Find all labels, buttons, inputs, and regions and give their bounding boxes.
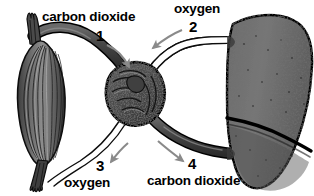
label-number-4: 4 [188,156,196,171]
label-oxygen-top: oxygen [174,2,220,16]
organ-lung [227,15,312,191]
label-number-3: 3 [96,158,104,173]
circulatory-diagram-illustration [0,0,314,196]
label-carbon-dioxide-top: carbon dioxide [42,10,135,24]
label-oxygen-bottom: oxygen [64,176,110,190]
pointer-arrow-3 [111,143,128,162]
organ-heart [106,62,165,126]
label-number-2: 2 [189,19,197,34]
organ-muscle [18,13,66,192]
label-number-1: 1 [96,28,104,43]
label-carbon-dioxide-bottom: carbon dioxide [147,174,240,188]
diagram-canvas: carbon dioxide 1 oxygen 2 3 oxygen 4 car… [0,0,314,196]
